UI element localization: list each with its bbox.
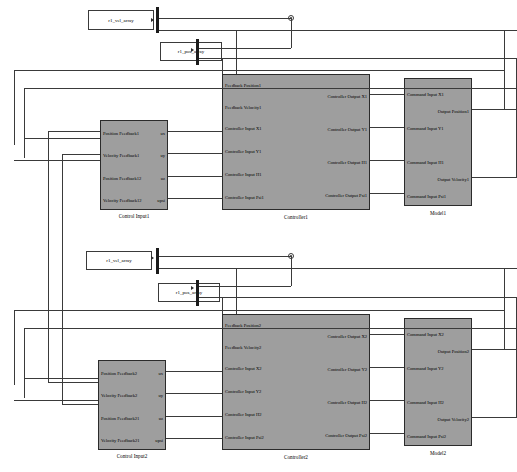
wire	[370, 94, 404, 95]
port-label-in: Controller Input H1	[225, 173, 262, 178]
wire	[370, 160, 404, 161]
wire	[48, 131, 100, 132]
wire	[504, 30, 505, 109]
port-label-in: Position Feedback21	[101, 417, 139, 422]
mux-bar-top-pos[interactable]	[196, 39, 199, 65]
wire	[504, 268, 505, 349]
block-model2[interactable]: Command Input X2 Command Input Y2 Comman…	[404, 318, 472, 446]
port-label-in: Command Input Y2	[407, 367, 444, 372]
wire	[370, 433, 404, 434]
wire	[168, 176, 222, 177]
block-controller1[interactable]: Feedback Position1 Feedback Velocity1 Co…	[222, 74, 370, 210]
wire	[159, 30, 517, 31]
port-label-in: Velocity Feedback12	[103, 199, 142, 204]
port-label-out: Controller Output H2	[327, 401, 367, 406]
wire	[14, 160, 100, 161]
wire	[62, 154, 63, 232]
source-block-r1-vel-array-top[interactable]: r1_vel_array	[88, 10, 154, 30]
wire	[48, 131, 49, 224]
port-label-in: Controller Input Psi2	[225, 436, 264, 441]
wire	[24, 328, 516, 329]
port-label-in: Feedback Velocity2	[225, 346, 261, 351]
port-label-out: Controller Output Y2	[328, 368, 367, 373]
block-title-model2: Model2	[404, 450, 472, 456]
wire	[199, 48, 291, 49]
port-label-in: Velocity Feedback1	[103, 154, 139, 159]
port-label-out: ux	[158, 372, 163, 377]
port-label-in: Position Feedback2	[101, 372, 137, 377]
wire	[159, 256, 291, 257]
source-block-r1-vel-array-bottom[interactable]: r1_vel_array	[86, 251, 152, 270]
wire	[472, 109, 516, 110]
port-label-out: Controller Output X1	[327, 95, 367, 100]
wire	[199, 297, 517, 298]
wire	[291, 256, 292, 286]
wire	[48, 382, 98, 383]
wire	[168, 131, 222, 132]
port-label-out: uz	[159, 417, 163, 422]
wire	[370, 193, 404, 194]
wire	[24, 328, 25, 398]
wire	[159, 18, 291, 19]
port-label-in: Position Feedback12	[103, 177, 141, 182]
port-label-in: Command Input H1	[407, 161, 444, 166]
port-label-in: Command Input H2	[407, 401, 444, 406]
wire	[472, 417, 517, 418]
port-label-out: Controller Output Y1	[328, 128, 367, 133]
arrow-icon	[191, 48, 194, 52]
block-title-model1: Model1	[404, 210, 472, 216]
port-label-in: Controller Input Psi1	[225, 196, 264, 201]
port-label-in: Command Input Psi1	[407, 195, 446, 200]
port-label-out: Controller Output X2	[327, 335, 367, 340]
port-label-in: Controller Input X2	[225, 367, 262, 372]
block-title-controller2: Controller2	[222, 454, 370, 460]
wire	[166, 416, 222, 417]
block-model1[interactable]: Command Input X1 Command Input Y1 Comman…	[404, 78, 472, 206]
mux-bar-bottom-vel[interactable]	[156, 248, 159, 274]
wire	[370, 400, 404, 401]
source-label: r1_vel_array	[108, 18, 134, 23]
port-label-in: Position Feedback1	[103, 132, 139, 137]
port-label-in: Command Input X1	[407, 93, 444, 98]
port-label-out: upsi	[155, 439, 163, 444]
wire	[166, 371, 222, 372]
wire	[62, 154, 100, 155]
port-label-out: ux	[160, 132, 165, 137]
port-label-out: Output Position2	[438, 350, 469, 355]
wire	[166, 438, 222, 439]
port-label-out: uz	[161, 177, 165, 182]
arrow-icon	[151, 18, 154, 22]
wire	[14, 70, 504, 71]
wire	[472, 349, 516, 350]
mux-bar-bottom-pos[interactable]	[196, 280, 199, 306]
wire	[14, 310, 15, 385]
block-controller2[interactable]: Feedback Position2 Feedback Velocity2 Co…	[222, 314, 370, 450]
port-label-out: uy	[158, 394, 163, 399]
wire	[24, 378, 98, 379]
arrow-icon	[191, 286, 194, 290]
wire	[62, 404, 98, 405]
port-label-in: Controller Input X1	[225, 127, 262, 132]
wire	[291, 18, 292, 48]
port-label-in: Feedback Velocity1	[225, 106, 261, 111]
source-label: r1_vel_array	[106, 258, 132, 263]
port-label-in: Command Input Y1	[407, 127, 444, 132]
block-control-input2[interactable]: Position Feedback2 Velocity Feedback2 Po…	[98, 360, 166, 450]
wire	[166, 393, 222, 394]
port-label-out: Controller Output Psi1	[325, 194, 367, 199]
wire	[14, 310, 504, 311]
arrow-icon	[151, 256, 154, 260]
block-control-input1[interactable]: Position Feedback1 Velocity Feedback1 Po…	[100, 120, 168, 210]
port-label-out: Output Velocity1	[438, 178, 469, 183]
wire	[48, 224, 49, 382]
port-label-out: uy	[160, 154, 165, 159]
wire	[199, 286, 291, 287]
port-label-out: Controller Output H1	[327, 161, 367, 166]
wire	[159, 268, 517, 269]
port-label-in: Controller Input Y1	[225, 150, 261, 155]
wire	[14, 70, 15, 145]
wire	[199, 58, 517, 59]
wire	[370, 334, 404, 335]
port-label-out: upsi	[157, 199, 165, 204]
wire	[24, 88, 25, 158]
